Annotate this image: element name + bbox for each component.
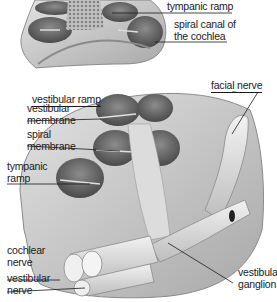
label-text-line2: ganglion — [238, 278, 277, 290]
label-text-line1: tympanic — [7, 160, 47, 172]
label-text-line1: cochlear — [7, 244, 45, 256]
label-text-line2: nerve — [7, 284, 50, 296]
label-cochlear-nerve: cochlear nerve — [7, 244, 45, 268]
label-spiral-membrane: spiral membrane — [27, 128, 76, 152]
label-text-line1: vestibular — [27, 102, 76, 114]
label-text-line2: membrane — [27, 114, 76, 126]
label-vestibular-membrane: vestibular membrane — [27, 102, 76, 126]
label-text-line2: membrane — [27, 140, 76, 152]
label-text-line2: the cochlea — [174, 30, 236, 42]
label-text-line1: spiral — [27, 128, 76, 140]
label-text: tympanic ramp — [167, 0, 233, 12]
label-text: facial nerve — [211, 79, 262, 93]
label-text-line2: ramp — [7, 172, 47, 184]
label-vestibular-ganglion: vestibular ganglion — [238, 266, 277, 290]
label-vestibular-nerve: vestibular nerve — [7, 272, 50, 296]
label-text-line1: vestibular — [238, 266, 277, 278]
top-cochlea-section — [21, 0, 166, 68]
label-text-line1: vestibular — [7, 272, 50, 284]
label-spiral-canal: spiral canal of the cochlea — [174, 18, 236, 42]
cochlea-diagram: tympanic ramp spiral canal of the cochle… — [0, 0, 277, 302]
label-tympanic-ramp: tympanic ramp — [7, 160, 47, 184]
label-text-line1: spiral canal of — [174, 18, 236, 30]
label-text-line2: nerve — [7, 256, 45, 268]
label-top-tympanic-ramp: tympanic ramp — [167, 0, 233, 12]
label-facial-nerve: facial nerve — [211, 79, 262, 91]
